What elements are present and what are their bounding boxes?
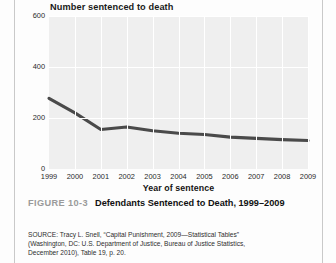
gridline-vertical	[101, 16, 102, 169]
page-right-rule	[322, 0, 323, 263]
x-axis-tick-label: 2003	[144, 172, 160, 181]
x-axis-tick-label: 2008	[274, 172, 290, 181]
x-axis-tick-label: 2009	[300, 172, 316, 181]
page-left-rule	[14, 0, 15, 263]
gridline-vertical	[75, 16, 76, 169]
y-axis-tick-label: 400	[33, 62, 45, 71]
gridline-vertical	[204, 16, 205, 169]
gridline-vertical	[308, 16, 309, 169]
x-axis-label: Year of sentence	[49, 183, 308, 193]
gridline-vertical	[179, 16, 180, 169]
x-axis-tick-label: 2002	[118, 172, 134, 181]
gridline-vertical	[153, 16, 154, 169]
x-axis-tick-label: 2007	[248, 172, 264, 181]
figure-caption-text: Defendants Sentenced to Death, 1999–2009	[95, 198, 284, 208]
x-axis-tick-label: 2005	[196, 172, 212, 181]
source-note-line: SOURCE: Tracy L. Snell, “Capital Punishm…	[28, 230, 314, 239]
chart-title: Number sentenced to death	[50, 2, 174, 12]
chart-container: Number sentenced to death 0200400600 199…	[28, 2, 313, 194]
y-axis-tick-label: 600	[33, 11, 45, 20]
gridline-vertical	[127, 16, 128, 169]
y-axis-tick-label: 200	[33, 113, 45, 122]
x-axis-tick-label: 2001	[93, 172, 109, 181]
y-axis-ticks: 0200400600	[28, 16, 45, 169]
source-note: SOURCE: Tracy L. Snell, “Capital Punishm…	[28, 230, 314, 258]
figure-page: Number sentenced to death 0200400600 199…	[0, 0, 336, 263]
x-axis-tick-label: 2006	[222, 172, 238, 181]
source-note-line: (Washington, DC: U.S. Department of Just…	[28, 239, 314, 248]
source-note-line: December 2010), Table 19, p. 20.	[28, 248, 314, 257]
plot-area	[49, 16, 308, 169]
figure-caption: FIGURE 10-3Defendants Sentenced to Death…	[28, 197, 308, 210]
gridline-vertical	[256, 16, 257, 169]
x-axis-tick-label: 2000	[67, 172, 83, 181]
figure-number: FIGURE 10-3	[28, 198, 88, 208]
x-axis-tick-label: 2004	[170, 172, 186, 181]
gridline-vertical	[282, 16, 283, 169]
x-axis-tick-label: 1999	[41, 172, 57, 181]
gridline-vertical	[230, 16, 231, 169]
